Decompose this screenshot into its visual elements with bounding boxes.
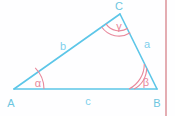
vertex-label-C: C (115, 0, 123, 12)
vertex-labels: A B C (7, 0, 160, 109)
side-label-c: c (85, 95, 91, 107)
vertex-label-A: A (7, 97, 15, 109)
triangle-figure: A B C b a c α β γ (0, 0, 175, 116)
angle-label-alpha: α (35, 77, 42, 89)
angle-labels: α β γ (35, 20, 149, 89)
side-label-b: b (60, 40, 66, 52)
side-a-line (120, 14, 157, 89)
side-b-line (14, 14, 120, 89)
side-label-a: a (144, 38, 151, 50)
angle-label-beta: β (143, 76, 149, 88)
vertex-label-B: B (153, 97, 160, 109)
angle-label-gamma: γ (116, 20, 122, 32)
triangle-diagram-svg: A B C b a c α β γ (0, 0, 175, 116)
